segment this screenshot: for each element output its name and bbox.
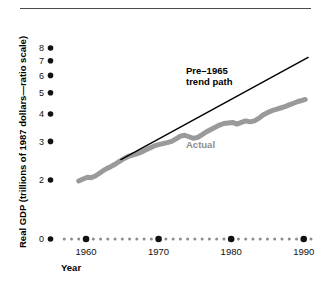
x-minor-tick-dot [77, 238, 80, 241]
x-tick-label: 1990 [293, 246, 314, 257]
y-tick-dot [48, 58, 54, 64]
x-minor-tick-dot [273, 238, 276, 241]
x-axis-tick-dots [63, 236, 313, 243]
trend-path-label-line2: trend path [186, 76, 233, 87]
x-minor-tick-dot [114, 238, 117, 241]
x-minor-tick-dot [70, 238, 73, 241]
x-tick-label: 1960 [75, 246, 96, 257]
x-minor-tick-dot [208, 238, 211, 241]
x-minor-tick-dot [128, 238, 131, 241]
x-major-tick-dot [155, 236, 162, 243]
y-tick-label: 4 [39, 109, 44, 119]
y-tick-label: 8 [39, 43, 44, 53]
x-major-tick-dot [300, 236, 307, 243]
x-minor-tick-dot [99, 238, 102, 241]
x-minor-tick-dot [179, 238, 182, 241]
y-tick-dot [48, 45, 54, 51]
x-minor-tick-dot [237, 238, 240, 241]
x-minor-tick-dot [280, 238, 283, 241]
x-minor-tick-dot [143, 238, 146, 241]
x-major-tick-dot [228, 236, 235, 243]
y-tick-dot [48, 177, 54, 183]
x-minor-tick-dot [63, 238, 66, 241]
x-minor-tick-dot [121, 238, 124, 241]
x-minor-tick-dot [251, 238, 254, 241]
x-tick-label: 1980 [221, 246, 242, 257]
x-minor-tick-dot [164, 238, 167, 241]
y-tick-label: 2 [39, 175, 44, 185]
y-tick-dot [48, 90, 54, 96]
x-minor-tick-dot [288, 238, 291, 241]
x-minor-tick-dot [295, 238, 298, 241]
actual-series-label: Actual [186, 139, 215, 150]
x-minor-tick-dot [222, 238, 225, 241]
y-tick-dot [48, 73, 54, 79]
y-tick-label: 7 [39, 56, 44, 66]
y-axis-ticks: 87654320 [39, 43, 53, 244]
real-gdp-chart: Real GDP (trillions of 1987 dollars—rati… [0, 0, 327, 281]
x-minor-tick-dot [135, 238, 138, 241]
trend-path-label-line1: Pre–1965 [186, 65, 228, 76]
x-axis-tick-labels: 1960197019801990 [75, 246, 314, 257]
x-minor-tick-dot [201, 238, 204, 241]
y-tick-dot [48, 236, 54, 242]
y-tick-label: 6 [39, 71, 44, 81]
y-tick-dot [48, 111, 54, 117]
x-minor-tick-dot [259, 238, 262, 241]
x-minor-tick-dot [244, 238, 247, 241]
x-minor-tick-dot [186, 238, 189, 241]
chart-figure: Real GDP (trillions of 1987 dollars—rati… [0, 0, 327, 281]
y-tick-label: 5 [39, 88, 44, 98]
x-minor-tick-dot [150, 238, 153, 241]
x-minor-tick-dot [92, 238, 95, 241]
y-tick-dot [48, 139, 54, 145]
x-minor-tick-dot [193, 238, 196, 241]
y-tick-label: 3 [39, 137, 44, 147]
x-axis-title: Year [61, 262, 81, 273]
x-minor-tick-dot [266, 238, 269, 241]
x-major-tick-dot [83, 236, 90, 243]
y-axis-title: Real GDP (trillions of 1987 dollars—rati… [17, 36, 28, 248]
x-minor-tick-dot [215, 238, 218, 241]
x-tick-label: 1970 [148, 246, 169, 257]
y-tick-label: 0 [39, 234, 44, 244]
x-minor-tick-dot [106, 238, 109, 241]
x-minor-tick-dot [310, 238, 313, 241]
x-minor-tick-dot [172, 238, 175, 241]
